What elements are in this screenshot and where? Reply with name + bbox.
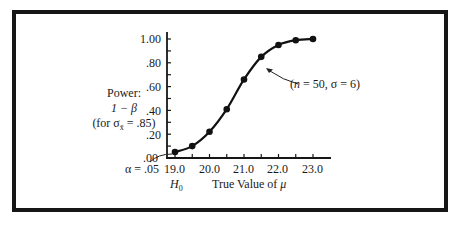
- x-tick-label: 19.0: [164, 163, 185, 176]
- x-axis-title: True Value of μ: [212, 178, 286, 191]
- power-curve: [175, 39, 313, 152]
- x-tick-label: 20.0: [199, 163, 220, 176]
- y-tick-label: 1.00: [140, 33, 161, 46]
- x-tick-label: 22.0: [267, 163, 288, 176]
- h0-label: H0: [170, 178, 183, 195]
- y-tick-label: .40: [146, 105, 161, 118]
- data-point: [189, 143, 196, 150]
- y-tick-label: .20: [146, 129, 161, 142]
- data-point: [223, 106, 230, 113]
- data-point: [275, 42, 282, 49]
- data-point: [310, 36, 317, 43]
- data-point: [292, 37, 299, 44]
- data-point: [258, 54, 265, 61]
- y-tick-label: .60: [146, 81, 161, 94]
- x-tick-label: 23.0: [302, 163, 323, 176]
- alpha-label: α = .05: [125, 163, 159, 176]
- y-tick-label: .80: [146, 57, 161, 70]
- data-point: [172, 149, 179, 156]
- data-point: [206, 129, 213, 136]
- x-tick-label: 21.0: [233, 163, 254, 176]
- curve-annotation: (n = 50, σ = 6): [290, 78, 360, 91]
- data-point: [241, 76, 248, 83]
